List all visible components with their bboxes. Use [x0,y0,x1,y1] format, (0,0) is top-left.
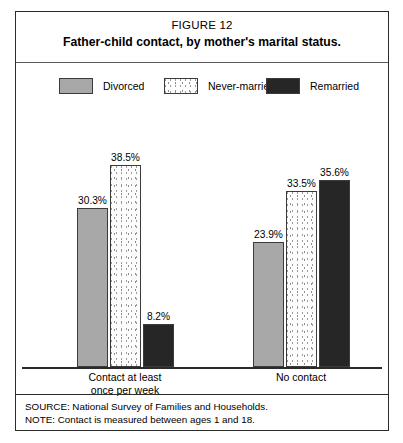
figure-container: FIGURE 12 Father-child contact, by mothe… [15,11,389,431]
bar-group-no-contact: 23.9% 33.5% 35.6% [253,136,350,367]
bar-wrap-remarried-g0: 8.2% [143,136,174,367]
chart-legend: Divorced Never-married Remarried [16,63,388,107]
footnote-note: NOTE: Contact is measured between ages 1… [25,414,388,427]
category-label-line-1: Contact at least [45,371,205,384]
axis-baseline [22,367,382,369]
figure-number-label: FIGURE 12 [16,18,388,32]
legend-item-divorced: Divorced [59,77,144,95]
bar-wrap-divorced-g1: 23.9% [253,136,284,367]
bar-group-contact-at-least-once-per-week: 30.3% 38.5% 8.2% [77,136,174,367]
bar-divorced-g1 [253,242,284,367]
figure-title-block: FIGURE 12 Father-child contact, by mothe… [16,12,388,63]
legend-label-remarried: Remarried [310,80,359,92]
category-label-no-contact: No contact [221,371,381,384]
bar-remarried-g1 [319,180,350,367]
bar-never-married-g0 [110,165,141,367]
legend-swatch-never-married [164,78,198,94]
bar-value-remarried-g1: 35.6% [308,167,361,178]
category-label-line-1: No contact [221,371,381,384]
legend-label-divorced: Divorced [103,80,144,92]
footnote-source: SOURCE: National Survey of Families and … [25,401,388,414]
bar-wrap-remarried-g1: 35.6% [319,136,350,367]
bar-remarried-g0 [143,324,174,367]
figure-title: Father-child contact, by mother's marita… [24,35,380,50]
bar-never-married-g1 [286,191,317,367]
bar-wrap-never-married-g0: 38.5% [110,136,141,367]
bar-value-remarried-g0: 8.2% [132,311,185,322]
plot-area: 30.3% 38.5% 8.2% 23.9% 33.5% 35.6% [16,107,388,396]
legend-swatch-divorced [59,78,93,94]
legend-item-remarried: Remarried [266,77,359,95]
legend-item-never-married: Never-married [164,77,275,95]
category-label-contact-at-least-once-per-week: Contact at least once per week [45,371,205,396]
figure-footnotes: SOURCE: National Survey of Families and … [16,394,388,430]
bar-divorced-g0 [77,208,108,367]
legend-swatch-remarried [266,78,300,94]
bar-wrap-divorced-g0: 30.3% [77,136,108,367]
